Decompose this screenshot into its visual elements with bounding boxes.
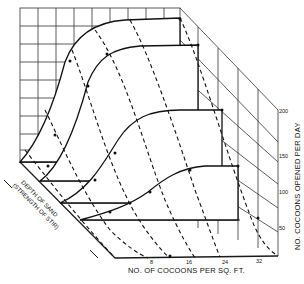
x-axis-ticks: 8 16 24 32 xyxy=(150,258,262,265)
z-tick-200: 200 xyxy=(279,108,288,114)
z-axis-ticks: 200 150 100 50 xyxy=(279,108,288,231)
z-tick-100: 100 xyxy=(279,189,288,195)
x-tick-24: 24 xyxy=(222,259,228,265)
x-axis-label: NO. OF COCOONS PER SQ. FT. xyxy=(128,266,245,275)
z-tick-150: 150 xyxy=(279,153,288,159)
x-tick-32: 32 xyxy=(256,258,262,264)
z-axis-label: NO. COCOONS OPENED PER DAY xyxy=(293,122,302,250)
depth-axis-label: DEPTH OF SAND (STRENGTH OF STIR) xyxy=(12,176,66,230)
x-tick-8: 8 xyxy=(150,259,153,265)
z-tick-50: 50 xyxy=(279,225,285,231)
chart-3d-surface: 200 150 100 50 NO. COCOONS OPENED PER DA… xyxy=(0,0,304,284)
surface-curves xyxy=(20,18,238,220)
x-tick-16: 16 xyxy=(186,259,192,265)
